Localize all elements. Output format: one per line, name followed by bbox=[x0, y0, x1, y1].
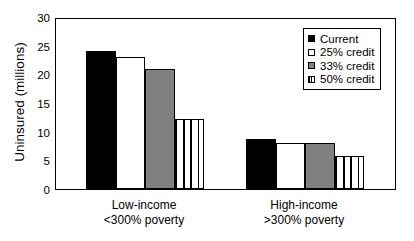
y-axis-tick-label: 30 bbox=[24, 12, 50, 24]
bar bbox=[145, 69, 175, 189]
legend-swatch-icon bbox=[308, 62, 315, 69]
y-axis-tick-label: 20 bbox=[24, 69, 50, 81]
y-axis-tick-label: 25 bbox=[24, 41, 50, 53]
bar-group bbox=[86, 19, 204, 189]
bar bbox=[175, 119, 205, 189]
x-axis-category-label-line2: <300% poverty bbox=[69, 213, 219, 228]
x-axis-category-label: Low-income<300% poverty bbox=[69, 198, 219, 228]
legend-swatch-icon bbox=[308, 49, 315, 56]
bar bbox=[335, 156, 365, 189]
legend-item: 33% credit bbox=[308, 59, 374, 73]
x-axis-category-label: High-income>300% poverty bbox=[229, 198, 379, 228]
x-axis-category-label-line2: >300% poverty bbox=[229, 213, 379, 228]
bar bbox=[116, 57, 146, 189]
y-axis-tick-label: 15 bbox=[24, 98, 50, 110]
legend-swatch-icon bbox=[308, 76, 315, 83]
x-axis-category-label-line1: High-income bbox=[229, 198, 379, 213]
y-axis-tick-label: 5 bbox=[24, 155, 50, 167]
legend-swatch-icon bbox=[308, 35, 315, 42]
bar bbox=[246, 139, 276, 189]
legend-item: 50% credit bbox=[308, 73, 374, 87]
legend-item-label: 25% credit bbox=[320, 46, 374, 58]
legend-item: Current bbox=[308, 32, 374, 46]
y-axis-tick-label: 10 bbox=[24, 127, 50, 139]
x-axis-category-label-line1: Low-income bbox=[69, 198, 219, 213]
bar bbox=[276, 143, 306, 189]
bar bbox=[86, 51, 116, 189]
y-axis-tick-label: 0 bbox=[24, 184, 50, 196]
bar bbox=[305, 143, 335, 189]
bar-chart: Uninsured (millions) 051015202530 Low-in… bbox=[0, 0, 414, 241]
legend-item-label: Current bbox=[320, 33, 358, 45]
legend-item-label: 33% credit bbox=[320, 60, 374, 72]
legend-item: 25% credit bbox=[308, 46, 374, 60]
y-axis-tick-labels: 051015202530 bbox=[24, 11, 50, 195]
chart-legend: Current25% credit33% credit50% credit bbox=[303, 28, 381, 90]
legend-item-label: 50% credit bbox=[320, 73, 374, 85]
